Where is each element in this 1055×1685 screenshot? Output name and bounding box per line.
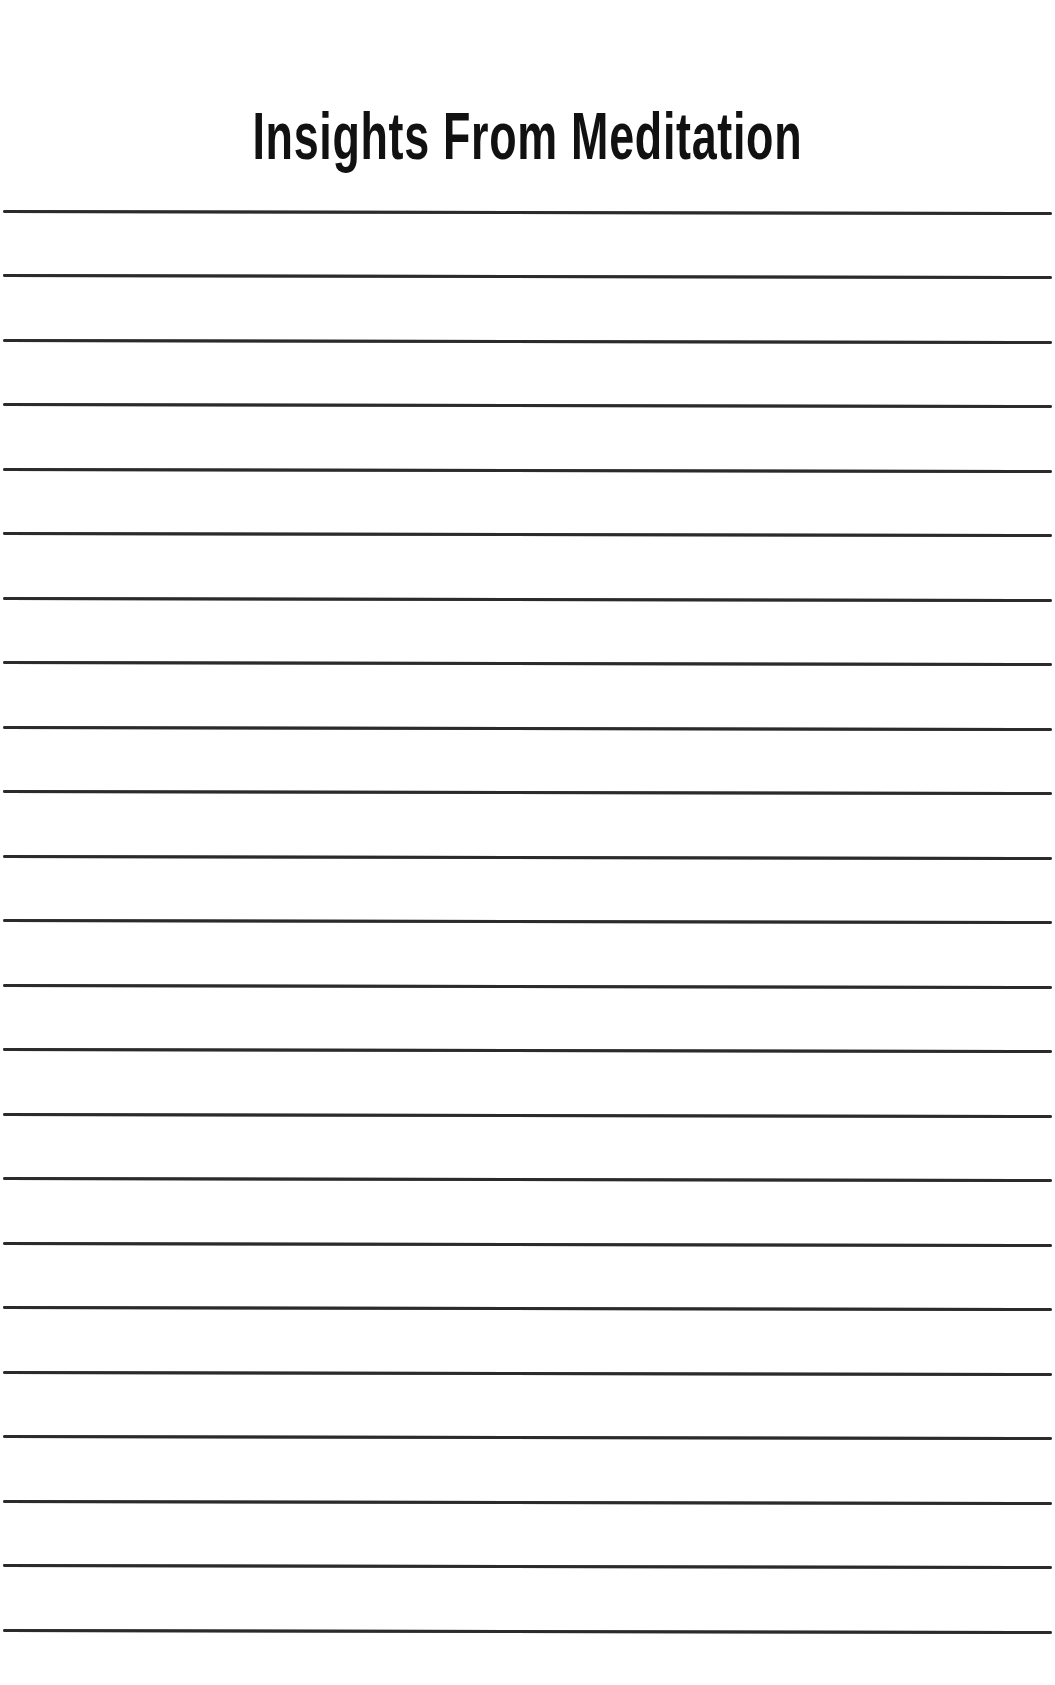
writing-line — [3, 790, 1052, 795]
writing-line — [3, 403, 1052, 408]
writing-line — [3, 855, 1052, 860]
ruled-lines — [0, 0, 1055, 1685]
writing-line — [3, 726, 1052, 731]
writing-line — [3, 1048, 1052, 1053]
writing-line — [3, 1629, 1052, 1634]
writing-line — [3, 532, 1052, 537]
writing-line — [3, 597, 1052, 602]
writing-line — [3, 1435, 1052, 1440]
writing-line — [3, 1371, 1052, 1376]
writing-line — [3, 919, 1052, 924]
journal-page: Insights From Meditation — [0, 0, 1055, 1685]
writing-line — [3, 984, 1052, 989]
writing-line — [3, 468, 1052, 473]
writing-line — [3, 339, 1052, 344]
writing-line — [3, 1177, 1052, 1182]
writing-line — [3, 1306, 1052, 1311]
writing-line — [3, 1500, 1052, 1505]
writing-line — [3, 661, 1052, 666]
writing-line — [3, 274, 1052, 279]
writing-line — [3, 1242, 1052, 1247]
writing-line — [3, 210, 1052, 215]
writing-line — [3, 1564, 1052, 1569]
writing-line — [3, 1113, 1052, 1118]
